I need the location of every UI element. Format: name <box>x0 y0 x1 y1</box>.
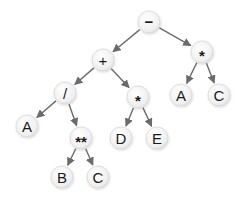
node-label: C <box>93 169 104 186</box>
edge-arrow <box>143 108 151 126</box>
node-label: E <box>152 130 162 147</box>
edge-arrow <box>68 149 76 166</box>
tree-node: / <box>54 82 76 104</box>
edge-arrow <box>126 108 133 126</box>
tree-node: D <box>110 127 132 149</box>
node-label: − <box>145 13 154 30</box>
node-label: * <box>135 92 141 109</box>
node-label: A <box>176 87 186 104</box>
node-label: A <box>22 118 32 135</box>
tree-node: A <box>170 84 192 106</box>
tree-node: B <box>51 166 73 188</box>
node-label: ** <box>75 133 87 150</box>
edge-arrow <box>86 149 93 165</box>
tree-node: + <box>92 49 114 71</box>
node-label: + <box>99 52 108 69</box>
edge-arrow <box>75 68 94 85</box>
edge-arrow <box>159 28 190 46</box>
tree-node: E <box>146 127 168 149</box>
node-label: C <box>214 87 225 104</box>
tree-node: * <box>127 86 149 109</box>
edge-arrow <box>37 101 56 118</box>
nodes: −+*/*ACA**DEBC <box>16 11 230 188</box>
edge-arrow <box>111 69 129 88</box>
edge-arrow <box>69 104 77 125</box>
tree-node: * <box>191 41 213 64</box>
tree-node: − <box>138 11 160 33</box>
node-label: D <box>116 130 127 147</box>
tree-node: A <box>16 115 38 137</box>
tree-node: C <box>208 84 230 106</box>
node-label: * <box>199 47 205 64</box>
tree-node: C <box>87 166 109 188</box>
expression-tree-diagram: −+*/*ACA**DEBC <box>0 0 243 202</box>
edge-arrow <box>187 63 197 84</box>
node-label: B <box>57 169 67 186</box>
edge-arrow <box>113 30 140 52</box>
tree-node: ** <box>70 127 92 150</box>
edge-arrow <box>206 63 214 83</box>
